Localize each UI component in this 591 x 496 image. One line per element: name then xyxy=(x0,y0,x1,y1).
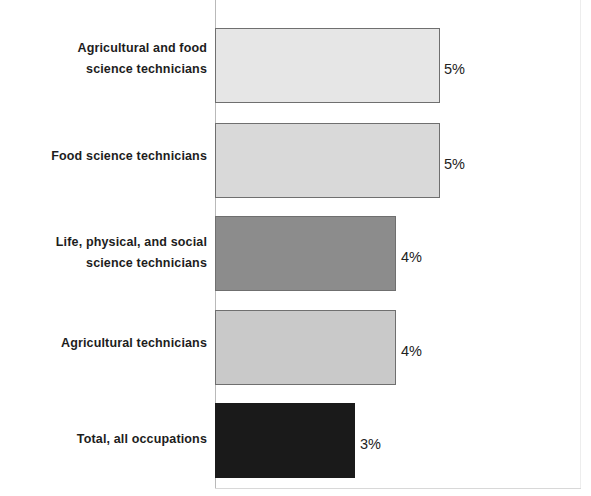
bar-row: Agricultural and food science technician… xyxy=(0,0,591,112)
category-label-line: Agricultural and food xyxy=(8,38,207,59)
category-label-line: Total, all occupations xyxy=(8,429,207,450)
category-label-line: Life, physical, and social xyxy=(8,232,207,253)
category-label: Total, all occupations xyxy=(8,429,207,450)
bar[interactable] xyxy=(215,123,440,198)
category-label-line: Agricultural technicians xyxy=(8,333,207,354)
category-label: Agricultural technicians xyxy=(8,333,207,354)
bar-chart: Agricultural and food science technician… xyxy=(0,0,591,496)
bar[interactable] xyxy=(215,216,396,291)
bar-row: Agricultural technicians 4% xyxy=(0,305,591,400)
bar[interactable] xyxy=(215,28,440,103)
bar-value-label: 5% xyxy=(444,62,465,77)
bar-value-label: 4% xyxy=(401,344,422,359)
category-label-line: science technicians xyxy=(8,59,207,80)
category-label-line: science technicians xyxy=(8,253,207,274)
bar[interactable] xyxy=(215,403,355,478)
category-label: Agricultural and food science technician… xyxy=(8,38,207,80)
bar-value-label: 5% xyxy=(444,157,465,172)
category-label: Food science technicians xyxy=(8,146,207,167)
category-label: Life, physical, and social science techn… xyxy=(8,232,207,274)
bar-row: Life, physical, and social science techn… xyxy=(0,207,591,305)
bar-row: Total, all occupations 3% xyxy=(0,400,591,489)
bar-value-label: 4% xyxy=(401,250,422,265)
bar-value-label: 3% xyxy=(360,437,381,452)
bar[interactable] xyxy=(215,310,396,385)
category-label-line: Food science technicians xyxy=(8,146,207,167)
bar-row: Food science technicians 5% xyxy=(0,112,591,207)
